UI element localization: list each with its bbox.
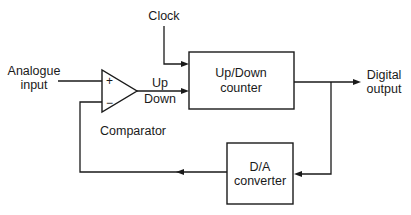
analogue-input-label-line2: input <box>20 78 48 92</box>
digital-output-label-line2: output <box>367 82 402 96</box>
clock-arrow-icon <box>181 61 189 67</box>
analogue-input-label-line1: Analogue <box>8 64 61 78</box>
clock-signal: Clock <box>148 9 189 67</box>
counter-label-line1: Up/Down <box>215 66 266 80</box>
analogue-input-signal: Analogue input <box>8 64 102 92</box>
clock-wire <box>164 26 185 64</box>
up-down-counter: Up/Down counter <box>189 52 294 109</box>
da-converter: D/A converter <box>227 143 293 204</box>
dac-label-line1: D/A <box>250 160 272 174</box>
up-down-arrow-icon <box>181 88 189 94</box>
feedback-to-dac <box>294 82 331 177</box>
dac-output-arrow-icon <box>176 169 184 175</box>
comparator-label: Comparator <box>100 124 166 138</box>
comparator-minus-sign: − <box>106 96 113 110</box>
counter-label-line2: counter <box>220 81 262 95</box>
up-label: Up <box>152 76 168 90</box>
feedback-to-comparator <box>80 102 227 175</box>
comparator-plus-sign: + <box>106 74 113 88</box>
dac-input-arrow-icon <box>294 171 302 177</box>
digital-output-label-line1: Digital <box>367 68 402 82</box>
digital-output-arrow-icon <box>353 79 361 85</box>
clock-label: Clock <box>148 9 180 23</box>
up-down-signal: Up Down <box>137 76 189 106</box>
digital-output-signal: Digital output <box>294 68 402 96</box>
dac-label-line2: converter <box>234 174 286 188</box>
feedback-branch-wire <box>298 82 331 174</box>
down-label: Down <box>144 92 176 106</box>
tracking-adc-diagram: Analogue input + − Comparator Up Down Cl… <box>0 0 411 215</box>
